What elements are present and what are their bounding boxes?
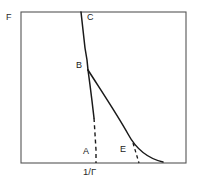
axes-frame	[21, 12, 186, 163]
point-label-c: C	[87, 13, 94, 22]
plot-canvas	[0, 0, 197, 187]
figure-container: F 1/Γ C B A E	[0, 0, 197, 187]
point-label-e: E	[120, 145, 126, 154]
point-label-b: B	[76, 61, 82, 70]
x-axis-label: 1/Γ	[83, 167, 96, 177]
point-label-a: A	[83, 147, 89, 156]
y-axis-label: F	[6, 13, 12, 22]
curve-b-to-a-dashed	[94, 118, 96, 163]
